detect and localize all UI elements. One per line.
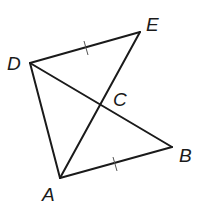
label-A: A [41,184,55,205]
diagram-svg: D E C B A [0,0,209,207]
label-C: C [113,89,127,110]
segment-AE [60,32,140,178]
label-E: E [146,14,159,35]
label-B: B [179,145,192,166]
segment-DA [30,63,60,178]
geometry-diagram: D E C B A [0,0,209,207]
segment-DE [30,32,140,63]
segment-AB [60,147,172,178]
label-D: D [7,53,21,74]
